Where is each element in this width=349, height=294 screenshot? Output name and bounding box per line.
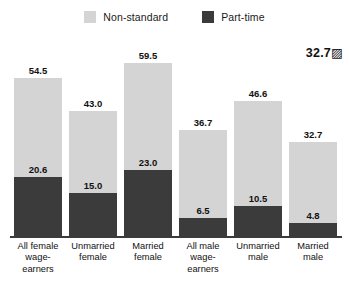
- bar-part-time[interactable]: [124, 170, 172, 237]
- bar-value-label-part-time: 6.5: [179, 205, 227, 216]
- bar-group: 46.610.5: [234, 1, 282, 237]
- category-label-line: female: [79, 252, 107, 262]
- bar-value-label-part-time: 23.0: [124, 157, 172, 168]
- bar-part-time[interactable]: [234, 206, 282, 237]
- category-label: Marriedfemale: [120, 241, 176, 264]
- category-label: Unmarriedfemale: [65, 241, 121, 264]
- category-label: Marriedmale: [285, 241, 341, 264]
- bar-value-label-part-time: 15.0: [69, 180, 117, 191]
- bar-value-label-non-standard: 36.7: [179, 117, 227, 128]
- bar-value-label-non-standard: 43.0: [69, 98, 117, 109]
- category-label-line: wage-: [190, 252, 215, 262]
- category-label-line: male: [248, 252, 268, 262]
- bar-part-time[interactable]: [14, 177, 62, 237]
- category-label: Unmarriedmale: [230, 241, 286, 264]
- category-label-line: Married: [297, 241, 329, 251]
- bar-value-label-part-time: 10.5: [234, 193, 282, 204]
- bar-part-time[interactable]: [69, 193, 117, 237]
- bar-group: 59.523.0: [124, 1, 172, 237]
- bar-value-label-non-standard: 54.5: [14, 65, 62, 76]
- bar-group: 54.520.6: [14, 1, 62, 237]
- bar-value-label-part-time: 20.6: [14, 164, 62, 175]
- bar-group: 36.76.5: [179, 1, 227, 237]
- category-label-line: earners: [187, 264, 219, 274]
- category-label-line: All female: [18, 241, 59, 251]
- bar-group: 32.74.8: [289, 1, 337, 237]
- bar-value-label-non-standard: 46.6: [234, 88, 282, 99]
- category-label: All malewage-earners: [175, 241, 231, 275]
- plot-area: 54.520.643.015.059.523.036.76.546.610.53…: [0, 0, 349, 237]
- category-label-line: All male: [186, 241, 219, 251]
- category-label: All femalewage-earners: [10, 241, 66, 275]
- bar-group: 43.015.0: [69, 1, 117, 237]
- category-label-line: Married: [132, 241, 164, 251]
- category-label-line: male: [303, 252, 323, 262]
- x-axis-category-labels: All femalewage-earnersUnmarriedfemaleMar…: [0, 241, 349, 294]
- category-label-line: earners: [22, 264, 54, 274]
- bar-part-time[interactable]: [179, 218, 227, 237]
- bar-chart: Non-standard Part-time 32.7▨ 54.520.643.…: [0, 0, 349, 294]
- bar-value-label-non-standard: 32.7: [289, 129, 337, 140]
- bar-value-label-non-standard: 59.5: [124, 50, 172, 61]
- category-label-line: Unmarried: [236, 241, 279, 251]
- bar-value-label-part-time: 4.8: [289, 210, 337, 221]
- category-label-line: wage-: [25, 252, 50, 262]
- category-label-line: female: [134, 252, 162, 262]
- bar-part-time[interactable]: [289, 223, 337, 237]
- category-label-line: Unmarried: [71, 241, 114, 251]
